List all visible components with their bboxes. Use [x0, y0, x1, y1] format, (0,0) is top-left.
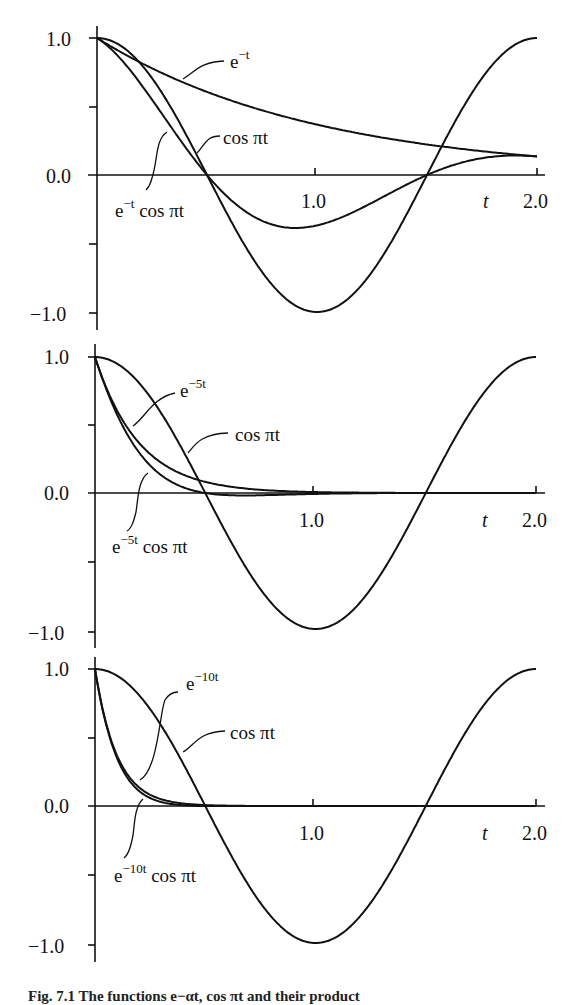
y-tick-label-1: 1.0	[44, 658, 69, 680]
label-exp: e−10t	[186, 669, 219, 694]
label-cos: cos πt	[223, 127, 269, 148]
x-axis-label: t	[483, 190, 489, 212]
leader-cos	[183, 731, 225, 752]
panel-3: 1.0 0.0 −1.0 1.0 2.0 t e−10t cos πt e−10…	[28, 657, 547, 962]
y-tick-label-neg1: −1.0	[30, 303, 66, 325]
label-exp: e−t	[230, 47, 250, 72]
x-tick-label-1: 1.0	[299, 822, 324, 844]
y-tick-label-neg1: −1.0	[28, 622, 64, 644]
y-tick-label-0: 0.0	[46, 165, 71, 187]
panel-1: 1.0 0.0 −1.0 1.0 2.0 t e−t cos πt e−t co…	[30, 26, 548, 330]
y-tick-label-neg1: −1.0	[28, 935, 64, 957]
x-tick-label-1: 1.0	[299, 509, 324, 531]
curve-exp	[95, 669, 536, 806]
label-product: e−10t cos πt	[114, 861, 197, 886]
leader-exp	[140, 692, 178, 780]
figure-caption: Fig. 7.1 The functions e−αt, cos πt and …	[28, 988, 360, 1005]
leader-cos	[188, 433, 228, 453]
leader-product	[124, 799, 143, 858]
leader-product	[146, 132, 167, 190]
y-tick-label-1: 1.0	[46, 28, 71, 50]
leader-product	[127, 473, 148, 531]
leader-exp	[133, 393, 175, 426]
y-tick-label-0: 0.0	[44, 482, 69, 504]
label-product: e−t cos πt	[115, 196, 185, 221]
x-axis-label: t	[482, 509, 488, 531]
leader-exp	[183, 61, 224, 79]
x-tick-label-2: 2.0	[522, 822, 547, 844]
x-tick-label-2: 2.0	[523, 190, 548, 212]
x-tick-label-2: 2.0	[522, 509, 547, 531]
x-axis-label: t	[482, 822, 488, 844]
label-product: e−5t cos πt	[112, 532, 188, 557]
y-tick-label-1: 1.0	[44, 346, 69, 368]
label-exp: e−5t	[180, 376, 206, 401]
y-tick-label-0: 0.0	[44, 795, 69, 817]
curve-exp	[95, 357, 536, 493]
leader-cos	[197, 136, 220, 153]
panel-2: 1.0 0.0 −1.0 1.0 2.0 t e−5t cos πt e−5t …	[28, 344, 547, 648]
curve-product	[95, 669, 536, 806]
label-cos: cos πt	[235, 424, 281, 445]
curve-exp	[97, 38, 537, 157]
x-tick-label-1: 1.0	[301, 190, 326, 212]
curve-product	[95, 357, 536, 495]
label-cos: cos πt	[230, 722, 276, 743]
